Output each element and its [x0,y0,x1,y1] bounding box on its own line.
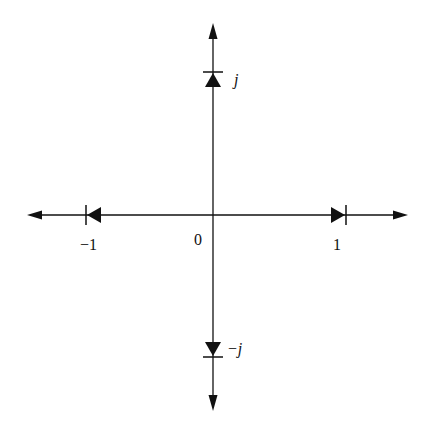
arrow-left-icon [27,211,42,220]
complex-plane-diagram: j −j 1 −1 0 [0,0,426,440]
real-axis [27,211,408,220]
label-neg-imag: −j [227,340,243,358]
label-origin: 0 [194,231,202,248]
label-pos-imag: j [232,71,239,89]
diode-neg-imag-icon [203,342,223,357]
arrow-down-icon [209,395,218,411]
label-neg-real: −1 [80,236,97,253]
diode-neg-real-icon [86,205,101,225]
arrow-up-icon [209,23,218,39]
diode-pos-real-icon [331,205,346,225]
arrow-right-icon [393,211,408,220]
diode-pos-imag-icon [203,72,223,87]
label-pos-real: 1 [333,236,341,253]
